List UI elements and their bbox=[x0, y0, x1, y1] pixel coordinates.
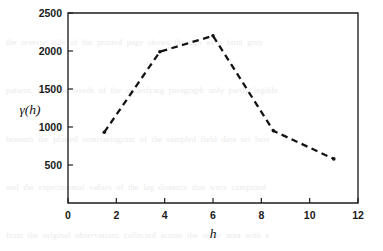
chart-canvas: 5001000150020002500 024681012 γ(h) h bbox=[0, 0, 383, 251]
y-tick-label: 1000 bbox=[39, 121, 63, 133]
data-point bbox=[272, 129, 276, 133]
x-tick-label: 4 bbox=[162, 209, 168, 221]
y-tick-label: 2000 bbox=[39, 45, 63, 57]
axis-box bbox=[68, 13, 358, 203]
y-tick-label: 2500 bbox=[39, 7, 63, 19]
x-axis-tick-labels: 024681012 bbox=[65, 209, 364, 221]
x-axis-ticks bbox=[68, 198, 358, 203]
x-tick-label: 0 bbox=[65, 209, 71, 221]
data-series-points bbox=[102, 34, 335, 161]
x-tick-label: 8 bbox=[258, 209, 264, 221]
y-axis-tick-labels: 5001000150020002500 bbox=[39, 7, 63, 171]
y-axis-ticks bbox=[68, 13, 73, 165]
x-tick-label: 10 bbox=[304, 209, 316, 221]
y-tick-label: 1500 bbox=[39, 83, 63, 95]
data-point bbox=[332, 157, 336, 161]
x-tick-label: 12 bbox=[352, 209, 364, 221]
y-tick-label: 500 bbox=[44, 159, 62, 171]
y-axis-title: γ(h) bbox=[19, 102, 41, 117]
x-tick-label: 6 bbox=[210, 209, 216, 221]
x-tick-label: 2 bbox=[113, 209, 119, 221]
data-point bbox=[102, 131, 106, 135]
x-axis-title: h bbox=[210, 226, 217, 241]
semivariogram-figure: 5001000150020002500 024681012 γ(h) h bbox=[0, 0, 383, 251]
data-point bbox=[211, 34, 215, 38]
data-series-line bbox=[104, 36, 334, 159]
data-point bbox=[158, 50, 162, 54]
